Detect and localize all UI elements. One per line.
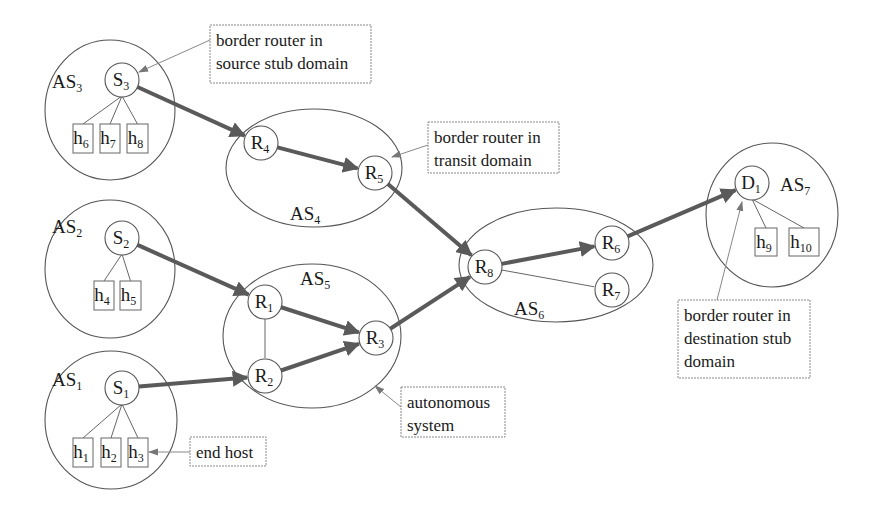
router-r3: R3 <box>359 321 393 355</box>
end-host-h4: h4 <box>94 254 122 310</box>
callout-text: border router in <box>684 306 791 325</box>
route-arrow-s3-r4 <box>137 87 244 136</box>
router-r8: R8 <box>468 250 502 284</box>
end-host-h9: h9 <box>752 199 777 256</box>
route-arrow-r4-r5 <box>277 147 357 168</box>
end-host-h7: h7 <box>100 96 122 153</box>
domain-label: AS1 <box>52 369 82 393</box>
callout-text: source stub domain <box>216 54 349 73</box>
callout-source-border: border router insource stub domain <box>139 25 371 83</box>
route-arrow-s2-r1 <box>138 245 249 295</box>
callout-text: border router in <box>434 128 541 147</box>
callout-transit-border: border router intransit domain <box>392 122 559 173</box>
callout-pointer <box>717 202 742 300</box>
callouts-layer: border router insource stub domainborder… <box>139 25 810 466</box>
domain-label: AS2 <box>52 216 82 240</box>
router-r5: R5 <box>358 156 392 190</box>
route-arrow-r5-r8 <box>388 184 471 255</box>
end-host-h3: h3 <box>122 404 148 467</box>
host-link <box>122 254 131 281</box>
callout-pointer <box>139 40 210 72</box>
route-arrow-r8-r6 <box>502 246 595 264</box>
route-arrow-r1-r3 <box>281 307 359 332</box>
route-arrow-s1-r2 <box>139 378 247 387</box>
callout-autonomous-system: autonomoussystem <box>375 386 505 437</box>
domain-label: AS3 <box>52 71 82 95</box>
router-s2: S2 <box>105 221 139 255</box>
callout-text: destination stub <box>684 329 791 348</box>
callout-text: domain <box>684 352 735 371</box>
callout-end-host: end host <box>149 437 266 466</box>
network-diagram: AS3AS2AS1AS4AS5AS6AS7 h6h7h8h4h5h1h2h3h9… <box>0 0 882 522</box>
host-link <box>122 404 138 438</box>
host-link <box>122 96 138 124</box>
router-r2: R2 <box>248 359 282 393</box>
callout-pointer <box>375 386 401 407</box>
route-arrow-r3-r8 <box>390 277 470 329</box>
domain-label: AS6 <box>514 298 544 322</box>
callout-pointer <box>392 145 428 157</box>
domain-label: AS5 <box>300 268 330 292</box>
route-arrow-r2-r3 <box>281 344 359 371</box>
router-s3: S3 <box>105 63 139 97</box>
routers-layer: S3S2S1R4R5R1R2R3R8R6R7D1 <box>105 63 769 405</box>
route-arrow-r6-d1 <box>628 190 736 236</box>
link-r8-r7 <box>502 270 595 287</box>
router-s1: S1 <box>105 371 139 405</box>
host-link <box>104 254 122 281</box>
router-r4: R4 <box>244 126 278 160</box>
router-r7: R7 <box>595 273 629 307</box>
domain-as1: AS1 <box>45 351 177 489</box>
callout-text: border router in <box>216 31 323 50</box>
router-r6: R6 <box>595 226 629 260</box>
domain-label: AS7 <box>780 174 810 198</box>
callout-text: end host <box>196 443 253 462</box>
domain-label: AS4 <box>290 203 320 227</box>
domain-as3: AS3 <box>45 40 175 180</box>
router-r1: R1 <box>248 285 282 319</box>
router-d1: D1 <box>735 166 769 200</box>
end-host-h5: h5 <box>120 254 141 310</box>
host-link <box>752 199 804 228</box>
callout-text: transit domain <box>434 151 532 170</box>
domain-as2: AS2 <box>45 200 175 338</box>
domain-boundary <box>45 40 175 180</box>
callout-text: system <box>407 416 454 435</box>
end-host-h8: h8 <box>122 96 148 153</box>
callout-text: autonomous <box>407 393 490 412</box>
